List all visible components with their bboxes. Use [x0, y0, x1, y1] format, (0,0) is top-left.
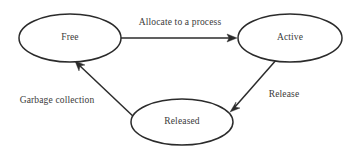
node-free[interactable]: Free: [19, 14, 121, 62]
edge-released-to-free: Garbage collection: [20, 61, 136, 119]
node-label-released: Released: [164, 116, 200, 126]
edge-label-release: Release: [269, 89, 300, 99]
edge-line-active-to-released: [234, 59, 277, 108]
edge-active-to-released: Release: [230, 59, 299, 112]
node-label-active: Active: [277, 32, 303, 42]
edge-label-allocate-to-a-process: Allocate to a process: [139, 17, 222, 27]
node-released[interactable]: Released: [131, 99, 233, 145]
edge-free-to-active: Allocate to a process: [121, 17, 237, 42]
edge-line-released-to-free: [79, 65, 136, 119]
node-active[interactable]: Active: [238, 14, 342, 62]
edge-label-garbage-collection: Garbage collection: [20, 95, 95, 105]
state-diagram: Allocate to a process Release Garbage co…: [0, 0, 354, 153]
node-label-free: Free: [61, 32, 78, 42]
diagram-canvas: Allocate to a process Release Garbage co…: [0, 0, 354, 153]
